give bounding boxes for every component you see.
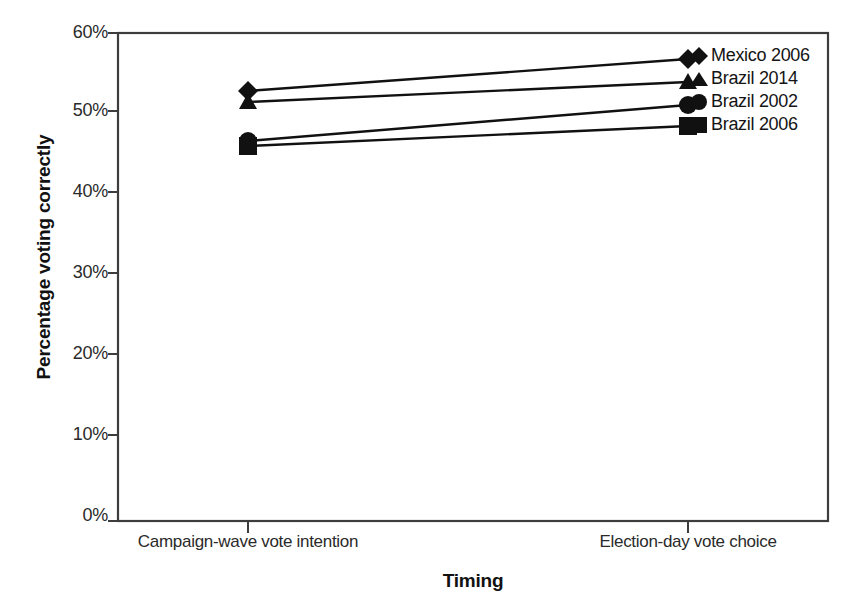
triangle-marker-icon xyxy=(688,68,710,90)
legend-label: Mexico 2006 xyxy=(711,45,810,66)
legend-item-mexico-2006: Mexico 2006 xyxy=(688,44,838,67)
square-marker-icon xyxy=(688,114,710,136)
diamond-marker-icon xyxy=(688,45,710,67)
legend-label: Brazil 2002 xyxy=(711,91,798,112)
series-brazil-2002 xyxy=(239,96,697,150)
circle-marker-icon xyxy=(688,91,710,113)
legend-label: Brazil 2014 xyxy=(711,68,798,89)
chart-legend: Mexico 2006 Brazil 2014 Brazil 2002 Braz… xyxy=(688,44,838,136)
x-tick-label-election-day: Election-day vote choice xyxy=(599,532,776,552)
legend-item-brazil-2014: Brazil 2014 xyxy=(688,67,838,90)
legend-item-brazil-2006: Brazil 2006 xyxy=(688,113,838,136)
square-marker-icon xyxy=(239,137,257,155)
y-tick-marks xyxy=(108,33,118,521)
series-brazil-2014 xyxy=(239,73,697,109)
x-axis-title: Timing xyxy=(118,570,828,592)
legend-label: Brazil 2006 xyxy=(711,114,798,135)
chart-figure: Percentage voting correctly 60% 50% 40% … xyxy=(0,0,850,613)
x-tick-label-campaign-wave: Campaign-wave vote intention xyxy=(138,532,358,552)
legend-item-brazil-2002: Brazil 2002 xyxy=(688,90,838,113)
